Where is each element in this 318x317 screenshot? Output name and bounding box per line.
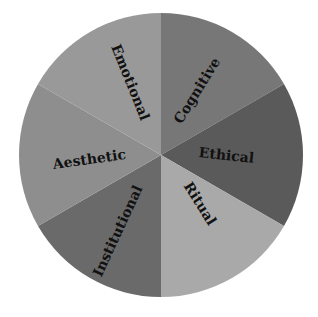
pie-chart: Cognitive Ethical Ritual Institutional A… [0, 0, 318, 317]
